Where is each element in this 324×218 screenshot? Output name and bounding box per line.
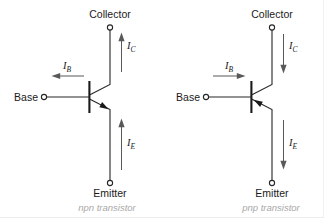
npn-base-label: Base <box>14 91 38 103</box>
pnp-emitter-lead <box>253 100 273 181</box>
pnp-transistor-group: Collector Base Emitter <box>176 8 301 213</box>
npn-base-current-arrow <box>52 73 85 79</box>
pnp-emitter-current-arrow <box>280 120 286 170</box>
pnp-collector-terminal-node <box>269 25 274 30</box>
npn-emitter-lead <box>91 100 111 181</box>
npn-emitter-terminal-node <box>107 180 112 185</box>
pnp-base-terminal-node <box>203 94 208 99</box>
npn-emitter-arrowhead <box>99 102 108 109</box>
npn-base-current-label: IB <box>62 60 72 74</box>
npn-collector-terminal-node <box>107 25 112 30</box>
pnp-collector-current-arrow <box>280 34 286 74</box>
pnp-base-current-label: IB <box>224 60 234 74</box>
npn-emitter-current-label: IE <box>126 137 136 151</box>
npn-collector-lead <box>91 30 111 94</box>
pnp-base-current-arrow <box>213 73 246 79</box>
transistor-diagram: Collector Base Emitter <box>0 0 324 218</box>
npn-emitter-label: Emitter <box>93 187 127 199</box>
npn-transistor-group: Collector Base Emitter <box>14 8 137 213</box>
npn-caption: npn transistor <box>78 202 136 213</box>
pnp-collector-label: Collector <box>251 8 293 20</box>
npn-emitter-current-arrow <box>118 119 124 171</box>
pnp-emitter-current-label: IE <box>288 137 298 151</box>
pnp-emitter-terminal-node <box>269 180 274 185</box>
npn-collector-label: Collector <box>89 8 131 20</box>
transistor-figure: Collector Base Emitter <box>0 0 324 218</box>
pnp-collector-current-label: IC <box>288 40 299 54</box>
npn-collector-current-label: IC <box>126 40 137 54</box>
npn-collector-current-arrow <box>118 33 124 73</box>
pnp-collector-lead <box>253 30 273 94</box>
pnp-emitter-label: Emitter <box>255 187 289 199</box>
pnp-emitter-arrowhead <box>254 100 263 107</box>
npn-base-terminal-node <box>41 94 46 99</box>
pnp-base-label: Base <box>176 91 200 103</box>
pnp-caption: pnp transistor <box>241 202 300 213</box>
